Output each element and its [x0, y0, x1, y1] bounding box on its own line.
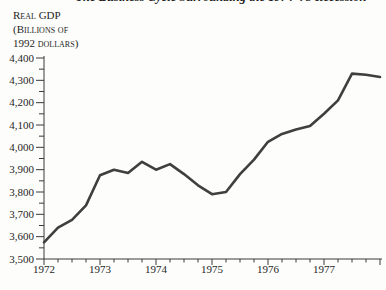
- y-tick-label: 4,100: [9, 119, 34, 131]
- y-tick-label: 4,000: [9, 141, 34, 153]
- y-tick-label: 3,800: [9, 186, 34, 198]
- y-tick-label: 3,700: [9, 208, 34, 220]
- x-tick-label: 1973: [89, 263, 112, 275]
- y-tick-label: 4,300: [9, 74, 34, 86]
- y-tick-label: 3,500: [9, 253, 34, 265]
- y-tick-label: 4,200: [9, 96, 34, 108]
- real-gdp-business-cycle-chart: The Business Cycle Surrounding the 1974–…: [0, 0, 386, 290]
- real-gdp-line-series: [44, 74, 380, 243]
- gdp-line-plot: 3,5003,6003,7003,8003,9004,0004,1004,200…: [0, 0, 386, 290]
- x-tick-label: 1977: [313, 263, 336, 275]
- y-tick-label: 4,400: [9, 52, 34, 64]
- x-tick-label: 1976: [257, 263, 280, 275]
- y-tick-label: 3,600: [9, 230, 34, 242]
- x-tick-label: 1974: [145, 263, 168, 275]
- x-tick-label: 1975: [201, 263, 224, 275]
- x-tick-label: 1972: [33, 263, 55, 275]
- y-tick-label: 3,900: [9, 163, 34, 175]
